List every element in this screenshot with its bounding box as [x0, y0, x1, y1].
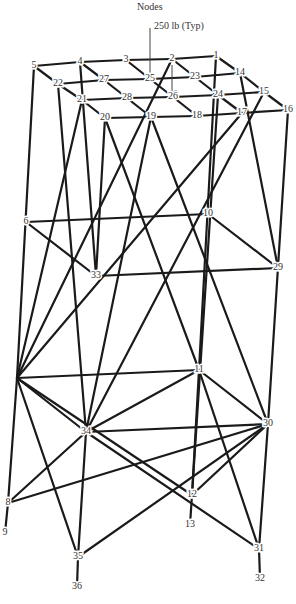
node-label-21: 21	[77, 93, 87, 104]
node-label-28: 28	[122, 91, 132, 102]
member-3-2	[126, 59, 172, 60]
nodes-heading: Nodes	[137, 1, 163, 12]
node-label-22: 22	[53, 77, 63, 88]
member-10-29	[208, 214, 278, 268]
node-label-4: 4	[78, 55, 83, 66]
node-label-33: 33	[91, 269, 101, 280]
node-label-26: 26	[168, 90, 178, 101]
member-27-25	[104, 79, 150, 80]
node-label-19: 19	[146, 110, 156, 121]
member-34-35	[78, 432, 86, 557]
truss-diagram: 1234514232527221524262821161718192061033…	[0, 0, 296, 604]
member-5-4	[34, 62, 80, 66]
node-label-18: 18	[192, 109, 202, 120]
node-label-36: 36	[72, 580, 82, 591]
member-7-8	[8, 378, 17, 503]
node-label-15: 15	[259, 85, 269, 96]
load-annotation: 250 lb (Typ)	[154, 20, 204, 32]
node-label-32: 32	[255, 572, 265, 583]
member-7-11	[17, 370, 199, 378]
member-28-26	[127, 97, 173, 98]
member-15-34	[86, 92, 264, 432]
node-label-5: 5	[32, 59, 37, 70]
node-label-23: 23	[190, 70, 200, 81]
node-label-30: 30	[263, 417, 273, 428]
node-label-1: 1	[214, 49, 219, 60]
member-21-28	[82, 98, 127, 100]
member-2-1	[172, 56, 216, 59]
node-label-27: 27	[99, 73, 109, 84]
node-label-13: 13	[185, 518, 195, 529]
member-34-30	[86, 424, 268, 432]
node-label-34: 34	[81, 425, 91, 436]
member-33-29	[96, 268, 278, 276]
member-34-8	[8, 432, 86, 503]
node-label-31: 31	[254, 542, 264, 553]
node-label-24: 24	[213, 88, 223, 99]
member-26-24	[173, 95, 218, 97]
node-label-3: 3	[124, 53, 129, 64]
member-19-18	[151, 116, 197, 117]
node-label-20: 20	[100, 111, 110, 122]
node-label-14: 14	[235, 66, 245, 77]
node-label-29: 29	[273, 261, 283, 272]
member-20-33	[96, 118, 105, 276]
node-label-9: 9	[3, 526, 8, 537]
member-4-3	[80, 60, 126, 62]
node-label-10: 10	[203, 207, 213, 218]
node-label-2: 2	[170, 52, 175, 63]
node-label-16: 16	[283, 103, 293, 114]
member-18-17	[197, 113, 242, 116]
node-label-8: 8	[6, 496, 11, 507]
member-24-15	[218, 92, 264, 95]
node-label-17: 17	[237, 106, 247, 117]
member-6-33	[26, 222, 96, 276]
node-label-12: 12	[187, 488, 197, 499]
truss-members	[5, 56, 288, 587]
member-17-16	[242, 110, 288, 113]
node-label-35: 35	[73, 550, 83, 561]
member-23-14	[195, 73, 240, 77]
node-label-11: 11	[194, 363, 204, 374]
node-label-6: 6	[24, 215, 29, 226]
member-30-31	[259, 424, 268, 549]
node-label-25: 25	[145, 72, 155, 83]
